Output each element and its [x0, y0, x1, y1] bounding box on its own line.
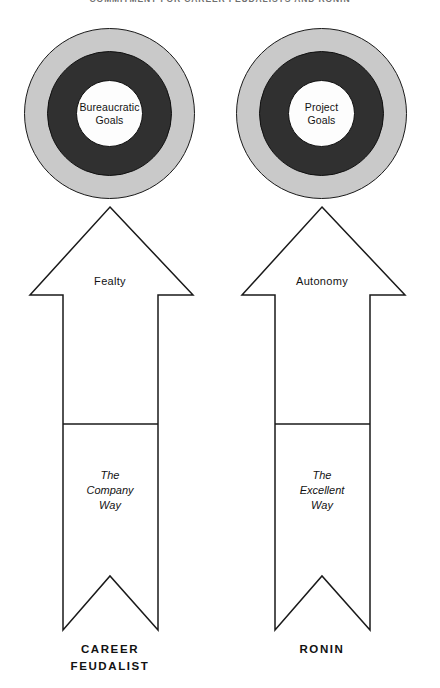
diagram-column-ronin: Project Goals Autonomy The Excellent Way… — [212, 0, 432, 688]
arrow-outline — [242, 207, 405, 630]
diagram-canvas: Bureaucratic Goals Fealty The Company Wa… — [0, 0, 440, 688]
arrow-ronin — [212, 0, 432, 688]
caption-ronin: RONIN — [212, 641, 432, 658]
arrow-career-feudalist — [0, 0, 220, 688]
arrow-shaft-label-company-way: The Company Way — [0, 468, 220, 513]
caption-career-feudalist: CAREER FEUDALIST — [0, 641, 220, 675]
arrow-shaft-label-excellent-way: The Excellent Way — [212, 468, 432, 513]
arrow-head-label-fealty: Fealty — [0, 275, 220, 287]
diagram-column-career-feudalist: Bureaucratic Goals Fealty The Company Wa… — [0, 0, 220, 688]
arrow-outline — [30, 207, 193, 630]
arrow-head-label-autonomy: Autonomy — [212, 275, 432, 287]
